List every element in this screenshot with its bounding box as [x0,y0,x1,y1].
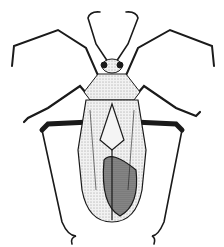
antennae [88,12,138,62]
insect-drawing [0,0,224,247]
insect-illustration [0,0,224,247]
pronotum [84,74,140,100]
head [101,59,123,73]
wings-body [78,100,146,222]
